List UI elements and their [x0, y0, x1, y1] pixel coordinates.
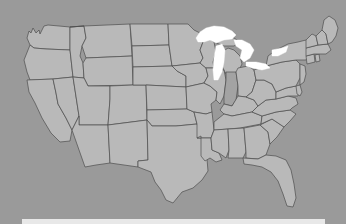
state-north-dakota[interactable] — [130, 24, 169, 46]
state-oklahoma[interactable] — [147, 109, 197, 126]
us-states-map[interactable] — [0, 0, 346, 224]
state-rhode-island[interactable] — [315, 54, 320, 62]
state-arkansas[interactable] — [194, 112, 214, 138]
state-wyoming[interactable] — [83, 56, 133, 86]
state-oregon[interactable] — [24, 45, 73, 80]
state-alabama[interactable] — [228, 128, 246, 158]
state-south-dakota[interactable] — [132, 45, 172, 67]
bottom-panel — [22, 219, 325, 224]
state-kansas[interactable] — [146, 85, 187, 110]
state-new-mexico[interactable] — [108, 120, 148, 167]
state-colorado[interactable] — [108, 85, 147, 125]
state-washington[interactable] — [27, 25, 70, 50]
